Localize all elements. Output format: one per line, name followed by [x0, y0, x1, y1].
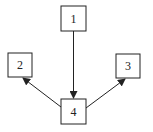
node-2-label: 2 — [17, 58, 23, 72]
edge-4-to-3 — [86, 79, 125, 108]
node-4-label: 4 — [71, 105, 77, 119]
node-3: 3 — [116, 54, 140, 78]
edge-4-to-2 — [23, 78, 61, 107]
node-3-label: 3 — [125, 59, 131, 73]
node-2: 2 — [8, 53, 32, 77]
diagram-canvas: 1 2 3 4 — [0, 0, 153, 132]
node-4: 4 — [61, 99, 86, 124]
node-1-label: 1 — [71, 12, 77, 26]
node-1: 1 — [61, 6, 86, 31]
